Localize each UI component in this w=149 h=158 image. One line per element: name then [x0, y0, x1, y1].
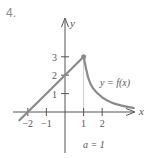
linear-segment	[19, 57, 83, 121]
peak-point	[81, 54, 86, 59]
y-axis	[62, 18, 69, 153]
x-ticks: −2−112	[22, 108, 104, 129]
annotation-a: a = 1	[83, 139, 105, 150]
y-tick-label: 3	[52, 52, 57, 63]
function-curve	[19, 57, 133, 121]
y-axis-label: y	[69, 17, 75, 29]
y-tick-label: 1	[52, 89, 57, 100]
y-ticks: 123	[52, 52, 69, 100]
x-tick-label: −2	[22, 118, 33, 129]
y-tick-label: 2	[52, 70, 57, 81]
x-tick-label: 2	[100, 118, 105, 129]
graph: −2−112 123 x y y = f(x) a = 1	[0, 0, 149, 158]
x-tick-label: 1	[81, 118, 86, 129]
x-axis-label: x	[138, 105, 144, 117]
x-tick-label: −1	[41, 118, 52, 129]
curve-label: y = f(x)	[99, 77, 131, 89]
